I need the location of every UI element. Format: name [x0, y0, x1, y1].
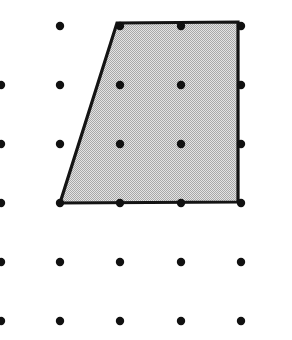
figure-canvas: [0, 0, 292, 340]
grid-dot: [237, 317, 245, 325]
grid-dot: [237, 199, 245, 207]
grid-dot: [177, 140, 185, 148]
grid-dot: [56, 140, 64, 148]
grid-dot: [237, 81, 245, 89]
grid-dot: [177, 81, 185, 89]
grid-dot: [177, 317, 185, 325]
grid-dot: [56, 81, 64, 89]
grid-dot: [177, 22, 185, 30]
grid-dot: [116, 140, 124, 148]
geoboard-figure: [0, 0, 292, 340]
grid-dot: [56, 199, 64, 207]
grid-dot: [237, 258, 245, 266]
grid-dot: [116, 199, 124, 207]
grid-dot: [116, 258, 124, 266]
grid-dot: [116, 22, 124, 30]
grid-dot: [237, 22, 245, 30]
grid-dot: [56, 317, 64, 325]
grid-dot: [56, 22, 64, 30]
grid-dot: [116, 81, 124, 89]
grid-dot: [177, 199, 185, 207]
grid-dot: [177, 258, 185, 266]
grid-dot: [116, 317, 124, 325]
grid-dot: [56, 258, 64, 266]
grid-dot: [237, 140, 245, 148]
